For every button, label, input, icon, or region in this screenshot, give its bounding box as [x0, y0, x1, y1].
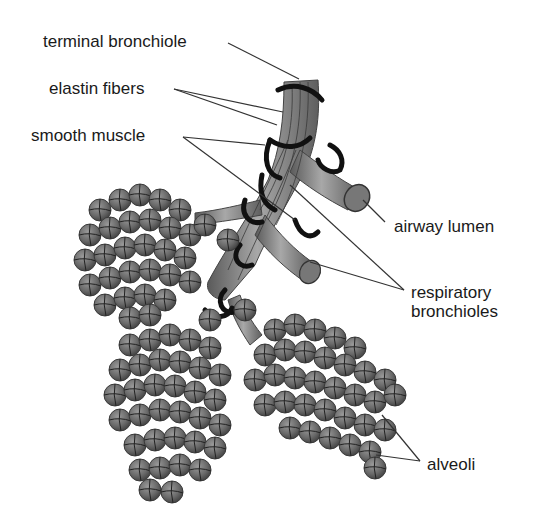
- label-terminal-bronchiole: terminal bronchiole: [43, 32, 187, 51]
- alveoli-cluster-lower-left: [104, 309, 231, 503]
- label-airway-lumen: airway lumen: [394, 217, 494, 236]
- alveoli-cluster-lower-right: [234, 299, 406, 479]
- label-elastin-fibers: elastin fibers: [49, 79, 144, 98]
- label-smooth-muscle: smooth muscle: [31, 126, 145, 145]
- label-respiratory-line1: respiratory: [411, 283, 498, 302]
- label-respiratory-bronchioles: respiratory bronchioles: [411, 283, 498, 321]
- alveoli-cluster-upper-left: [74, 184, 239, 329]
- airway-diagram: terminal bronchiole elastin fibers smoot…: [0, 0, 542, 521]
- label-respiratory-line2: bronchioles: [411, 302, 498, 321]
- label-alveoli: alveoli: [427, 455, 475, 474]
